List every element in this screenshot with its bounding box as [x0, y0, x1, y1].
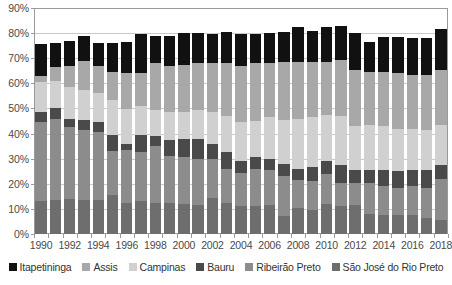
- bar-segment[interactable]: [221, 32, 232, 63]
- bar-segment[interactable]: [207, 112, 218, 143]
- bar-segment[interactable]: [192, 63, 203, 109]
- bar-segment[interactable]: [307, 210, 318, 234]
- bar-segment[interactable]: [93, 43, 104, 66]
- bar-segment[interactable]: [235, 66, 246, 123]
- bar-segment[interactable]: [64, 41, 75, 66]
- bar-column[interactable]: [292, 8, 303, 234]
- bar-segment[interactable]: [349, 33, 360, 69]
- bar-segment[interactable]: [207, 198, 218, 234]
- bar-segment[interactable]: [121, 150, 132, 203]
- bar-segment[interactable]: [378, 170, 389, 186]
- bar-segment[interactable]: [64, 87, 75, 118]
- bar-segment[interactable]: [392, 37, 403, 73]
- bar-segment[interactable]: [278, 62, 289, 120]
- legend-item[interactable]: Itapetininga: [9, 261, 72, 273]
- bar-segment[interactable]: [264, 63, 275, 117]
- bar-segment[interactable]: [107, 100, 118, 135]
- bar-segment[interactable]: [292, 27, 303, 62]
- bar-segment[interactable]: [421, 170, 432, 188]
- bar-segment[interactable]: [421, 218, 432, 234]
- bar-segment[interactable]: [150, 136, 161, 146]
- bar-segment[interactable]: [207, 159, 218, 198]
- bar-segment[interactable]: [164, 203, 175, 234]
- bar-segment[interactable]: [192, 139, 203, 159]
- bar-column[interactable]: [407, 8, 418, 234]
- bar-column[interactable]: [349, 8, 360, 234]
- bar-segment[interactable]: [307, 62, 318, 117]
- bar-segment[interactable]: [278, 120, 289, 164]
- bar-segment[interactable]: [93, 132, 104, 200]
- bar-segment[interactable]: [35, 112, 46, 122]
- bar-segment[interactable]: [93, 200, 104, 234]
- bar-column[interactable]: [207, 8, 218, 234]
- bar-segment[interactable]: [135, 34, 146, 73]
- bar-segment[interactable]: [335, 165, 346, 183]
- bar-segment[interactable]: [50, 108, 61, 118]
- bar-segment[interactable]: [349, 170, 360, 183]
- legend-item[interactable]: Assis: [82, 261, 117, 273]
- bar-segment[interactable]: [292, 119, 303, 169]
- bar-segment[interactable]: [78, 120, 89, 130]
- bar-segment[interactable]: [292, 208, 303, 234]
- bar-segment[interactable]: [378, 186, 389, 215]
- bar-segment[interactable]: [221, 63, 232, 116]
- bar-segment[interactable]: [93, 122, 104, 132]
- bar-segment[interactable]: [364, 42, 375, 72]
- bar-column[interactable]: [235, 8, 246, 234]
- bar-segment[interactable]: [349, 70, 360, 127]
- bar-segment[interactable]: [107, 43, 118, 72]
- bar-segment[interactable]: [392, 188, 403, 216]
- bar-segment[interactable]: [264, 205, 275, 234]
- bar-column[interactable]: [150, 8, 161, 234]
- bar-segment[interactable]: [292, 169, 303, 180]
- bar-column[interactable]: [164, 8, 175, 234]
- bar-segment[interactable]: [150, 110, 161, 136]
- bar-segment[interactable]: [164, 156, 175, 202]
- bar-column[interactable]: [64, 8, 75, 234]
- bar-segment[interactable]: [135, 73, 146, 106]
- bar-segment[interactable]: [321, 115, 332, 161]
- bar-segment[interactable]: [64, 199, 75, 234]
- bar-segment[interactable]: [178, 33, 189, 64]
- bar-segment[interactable]: [435, 29, 446, 69]
- bar-segment[interactable]: [435, 70, 446, 125]
- bar-segment[interactable]: [235, 122, 246, 161]
- bar-column[interactable]: [250, 8, 261, 234]
- bar-segment[interactable]: [178, 139, 189, 158]
- bar-segment[interactable]: [407, 170, 418, 186]
- bar-segment[interactable]: [121, 109, 132, 144]
- bar-segment[interactable]: [364, 170, 375, 183]
- bar-column[interactable]: [421, 8, 432, 234]
- bar-segment[interactable]: [150, 63, 161, 109]
- bar-segment[interactable]: [264, 170, 275, 205]
- bar-segment[interactable]: [307, 31, 318, 62]
- bar-column[interactable]: [278, 8, 289, 234]
- bar-segment[interactable]: [349, 205, 360, 234]
- bar-column[interactable]: [307, 8, 318, 234]
- bar-column[interactable]: [221, 8, 232, 234]
- bar-column[interactable]: [364, 8, 375, 234]
- bar-segment[interactable]: [50, 81, 61, 109]
- bar-segment[interactable]: [349, 126, 360, 170]
- bar-segment[interactable]: [50, 200, 61, 234]
- bar-column[interactable]: [264, 8, 275, 234]
- bar-segment[interactable]: [35, 201, 46, 234]
- bar-segment[interactable]: [407, 38, 418, 74]
- bar-segment[interactable]: [292, 62, 303, 119]
- bar-segment[interactable]: [78, 36, 89, 61]
- bar-segment[interactable]: [221, 169, 232, 203]
- bar-segment[interactable]: [335, 183, 346, 207]
- bar-segment[interactable]: [78, 200, 89, 234]
- bar-segment[interactable]: [392, 215, 403, 234]
- bar-segment[interactable]: [93, 93, 104, 122]
- bar-segment[interactable]: [250, 206, 261, 234]
- bar-segment[interactable]: [192, 33, 203, 63]
- bar-segment[interactable]: [221, 152, 232, 168]
- bar-segment[interactable]: [50, 43, 61, 67]
- bar-segment[interactable]: [321, 62, 332, 115]
- bar-segment[interactable]: [250, 157, 261, 168]
- bar-segment[interactable]: [349, 183, 360, 206]
- bar-segment[interactable]: [78, 130, 89, 200]
- bar-segment[interactable]: [235, 173, 246, 207]
- bar-segment[interactable]: [192, 205, 203, 234]
